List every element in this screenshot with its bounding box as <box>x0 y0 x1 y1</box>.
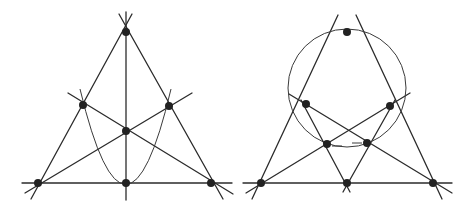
point-marker <box>79 101 87 109</box>
line-segment <box>356 15 442 199</box>
point-marker <box>34 179 42 187</box>
point-marker <box>343 179 351 187</box>
line-segment <box>68 93 233 194</box>
point-marker <box>302 100 310 108</box>
point-marker <box>122 127 130 135</box>
left-figure <box>22 12 233 200</box>
point-marker <box>207 179 215 187</box>
point-marker <box>122 28 130 36</box>
point-marker <box>429 179 437 187</box>
point-marker <box>257 179 265 187</box>
geometry-diagram <box>0 0 473 209</box>
point-marker <box>363 139 371 147</box>
point-marker <box>323 140 331 148</box>
line-segment <box>252 15 338 199</box>
point-marker <box>386 102 394 110</box>
point-marker <box>343 28 351 36</box>
point-marker <box>122 179 130 187</box>
right-figure <box>243 15 452 199</box>
point-marker <box>165 102 173 110</box>
